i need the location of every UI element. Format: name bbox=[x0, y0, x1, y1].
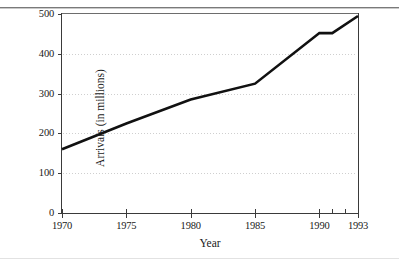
x-tick-label: 1975 bbox=[116, 220, 136, 231]
plot-right-spine bbox=[358, 13, 359, 214]
y-tick-label: 300 bbox=[14, 89, 54, 99]
y-tick-label: 0 bbox=[14, 208, 54, 218]
x-tick-label: 1970 bbox=[52, 220, 72, 231]
x-axis-title: Year bbox=[62, 237, 358, 249]
y-tick-label: 100 bbox=[14, 168, 54, 178]
y-tick-label: 500 bbox=[14, 9, 54, 19]
y-tick-label: 200 bbox=[14, 128, 54, 138]
x-tick bbox=[358, 209, 359, 218]
data-series-line bbox=[62, 14, 358, 213]
x-tick-label: 1993 bbox=[348, 220, 368, 231]
y-tick-label: 400 bbox=[14, 49, 54, 59]
x-tick-label: 1985 bbox=[245, 220, 265, 231]
plot-area: 0100200300400500 19701975198019851990199… bbox=[62, 14, 358, 213]
page-top-rule-shadow bbox=[0, 8, 399, 9]
x-tick-label: 1980 bbox=[181, 220, 201, 231]
x-tick-label: 1990 bbox=[309, 220, 329, 231]
chart-figure: 0100200300400500 19701975198019851990199… bbox=[0, 0, 399, 267]
page-bottom-rule bbox=[0, 258, 399, 259]
y-axis-title: Arrivals (in millions) bbox=[94, 18, 106, 218]
